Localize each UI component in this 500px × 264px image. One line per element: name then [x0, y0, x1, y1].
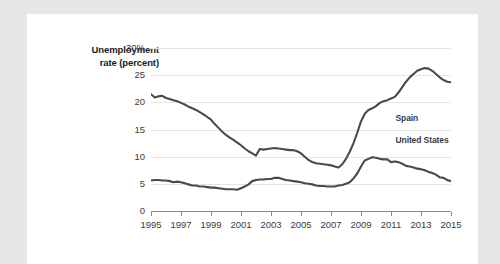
- y-tick-label-0: 0: [119, 206, 145, 216]
- x-tick-2015: [451, 212, 452, 216]
- x-tick-2005: [301, 212, 302, 216]
- y-tick-label-30: 30%: [119, 43, 145, 53]
- x-tick-2013: [421, 212, 422, 216]
- series-label-united-states: United States: [396, 135, 449, 145]
- x-tick-2001: [241, 212, 242, 216]
- line-united-states: [151, 157, 451, 190]
- x-tick-1999: [211, 212, 212, 216]
- y-tick-label-20: 20: [119, 97, 145, 107]
- y-tick-label-10: 10: [119, 152, 145, 162]
- x-tick-2007: [331, 212, 332, 216]
- x-tick-label-2015: 2015: [431, 219, 471, 230]
- x-tick-1995: [151, 212, 152, 216]
- x-tick-2009: [361, 212, 362, 216]
- y-tick-label-5: 5: [119, 179, 145, 189]
- series-label-spain: Spain: [396, 113, 419, 123]
- x-tick-1997: [181, 212, 182, 216]
- series-lines: [151, 48, 451, 211]
- y-axis-title-line-2: rate (percent): [53, 57, 159, 70]
- y-tick-label-25: 25: [119, 70, 145, 80]
- y-tick-label-15: 15: [119, 125, 145, 135]
- x-tick-2003: [271, 212, 272, 216]
- x-tick-2011: [391, 212, 392, 216]
- plot-area: [151, 48, 451, 211]
